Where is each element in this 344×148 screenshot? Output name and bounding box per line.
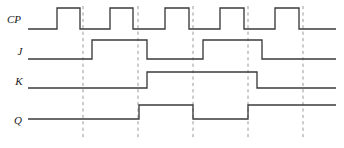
signal-label-j: J (18, 45, 24, 57)
waveform-cp (28, 8, 336, 29)
signal-label-q: Q (14, 114, 22, 126)
signal-label-k: K (14, 75, 23, 87)
waveform-k (28, 72, 336, 88)
timing-diagram-svg: CPJKQ (0, 0, 344, 148)
signal-label-cp: CP (7, 13, 21, 25)
waveform-j (28, 40, 336, 59)
waveform-q (28, 105, 336, 119)
timing-diagram-canvas: CPJKQ (0, 0, 344, 148)
